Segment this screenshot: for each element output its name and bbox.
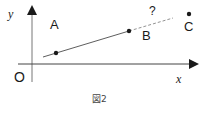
point-c-label: C: [184, 19, 193, 34]
point-c-dot: [187, 12, 191, 16]
question-mark-label: ?: [149, 4, 156, 18]
origin-label: O: [14, 69, 25, 85]
coordinate-diagram: A B C ? O x y 図2: [0, 0, 204, 113]
dashed-extension: [129, 18, 173, 31]
point-a-label: A: [50, 17, 59, 32]
y-axis-arrow-icon: [27, 5, 37, 15]
x-axis-arrow-icon: [189, 59, 199, 69]
figure-caption: 図2: [92, 94, 107, 104]
point-b-dot: [127, 29, 131, 33]
point-a-dot: [54, 51, 58, 55]
point-b-label: B: [142, 28, 151, 43]
y-axis-label: y: [7, 7, 14, 21]
x-axis-label: x: [175, 72, 182, 86]
figure-2: A B C ? O x y 図2: [0, 0, 204, 113]
